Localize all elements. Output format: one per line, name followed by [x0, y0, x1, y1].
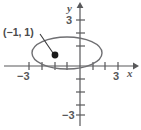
y-axis-arrowhead [77, 2, 84, 8]
x-axis-arrowhead [133, 63, 139, 70]
x-axis-tick-label-pos3: 3 [113, 71, 119, 82]
plotted-point [52, 52, 59, 59]
point-coordinate-label: (−1, 1) [3, 27, 34, 38]
leader-line [40, 34, 53, 53]
x-axis-tick-label-neg3: −3 [17, 71, 30, 82]
y-axis-tick-label-pos3: 3 [66, 15, 72, 26]
graph-figure: (−1, 1) −3 3 3 −3 x y [0, 0, 141, 130]
x-axis-name-label: x [127, 68, 133, 79]
y-axis-name-label: y [67, 3, 72, 14]
y-axis-tick-label-neg3: −3 [62, 110, 75, 121]
